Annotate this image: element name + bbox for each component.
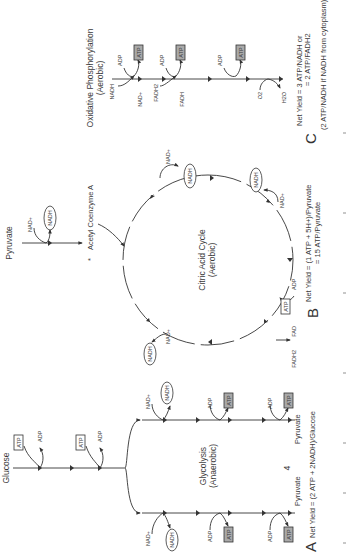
acetyl-entry-arrow <box>98 224 124 246</box>
panel-letter-b: B <box>304 308 321 318</box>
nad-plus-label: NAD+ <box>165 149 171 164</box>
oxphos-net-yield-line-2: = 2 ATP/FADH2 <box>303 33 312 86</box>
nad-reduction-arrow <box>264 190 278 202</box>
oxygen-label: O2 <box>257 92 263 99</box>
oxphos-atp-step-2: ADP ATP <box>159 45 185 77</box>
arrowhead-icon <box>138 76 142 82</box>
marker-4: 4 <box>282 465 292 470</box>
glycolysis-net-yield: Net Yield = (2 ATP + 2NADH)/Glucose <box>308 411 317 538</box>
arrowhead-icon <box>48 240 52 246</box>
acetyl-coa-label: Acetyl Coenzyme A <box>86 185 95 250</box>
nad-plus-out-label: NAD+ <box>137 92 143 107</box>
arrowhead-icon <box>288 417 292 423</box>
nad-plus-label: NAD+ <box>145 394 151 409</box>
atp-label: ATP <box>286 529 292 540</box>
cycle-nad-step-1: NAD+ NADH <box>144 329 171 365</box>
atp-label: ATP <box>136 47 142 58</box>
citric-cycle-subtitle: (Aerobic) <box>207 243 217 278</box>
adp-label: ADP <box>267 530 273 542</box>
atp-label: ATP <box>238 47 244 58</box>
atp-investment-1: ATP ADP <box>14 430 43 468</box>
nadh-label: NADH <box>47 210 53 226</box>
adp-to-atp-arrow <box>166 60 181 77</box>
nad-plus-label: NAD+ <box>279 193 285 208</box>
arrowhead-icon <box>196 510 200 516</box>
atp-label: ATP <box>283 301 289 312</box>
nad-reduction-arrow <box>152 334 166 342</box>
arrowhead-icon <box>288 510 292 516</box>
oxphos-subtitle: (Aerobic) <box>95 61 105 96</box>
arrowhead-icon <box>208 339 212 345</box>
adp-label: ADP <box>159 54 165 66</box>
nad-reduction-arrow <box>152 404 170 420</box>
arrowhead-icon <box>210 175 214 181</box>
adp-label: ADP <box>97 430 103 442</box>
pyruvate-label: Pyruvate <box>293 414 302 444</box>
nad-reduction-arrow <box>160 165 178 178</box>
atp-to-adp-arrow <box>86 446 103 468</box>
oxphos-atp-step-3: ADP ATP <box>217 45 245 77</box>
glycolysis-section: Glucose ATP ADP ATP ADP <box>1 382 319 552</box>
nadh-entry-arrow <box>118 76 134 86</box>
adp-to-atp-arrow <box>124 60 139 77</box>
adp-label: ADP <box>217 54 223 66</box>
nad-plus-label: NAD+ <box>27 217 33 232</box>
atp-label: ATP <box>16 437 22 448</box>
pyruvate-entry-label: Pyruvate <box>4 226 14 260</box>
cycle-atp-step: ADP ATP <box>280 278 297 314</box>
arrowhead-icon <box>150 195 155 199</box>
atp-label: ATP <box>286 395 292 406</box>
atp-label: ATP <box>226 529 232 540</box>
citric-acid-cycle-section: Pyruvate NAD+ NADH * Acetyl Coenzyme A C… <box>4 149 322 368</box>
oxphos-title: Oxidative Phosphorylation <box>85 28 95 127</box>
arrowhead-icon <box>279 76 283 82</box>
adp-label: ADP <box>117 54 123 66</box>
arrowhead-icon <box>196 417 200 423</box>
fadh2-in-label: FADH2 <box>153 84 159 102</box>
adp-to-atp-arrow <box>224 60 241 77</box>
nad-plus-label: NAD+ <box>145 531 151 546</box>
oxphos-cytoplasm-note: (2 ATP/NADH if NADH from cytoplasm) <box>319 0 328 130</box>
atp-label: ATP <box>226 395 232 406</box>
fadh2-label: FADH2 <box>291 350 297 368</box>
nadh-label: NADH <box>169 532 175 548</box>
atp-investment-2: ATP ADP <box>76 430 103 468</box>
nadh-label: NADH <box>253 172 259 188</box>
faint-caption-strip <box>343 132 346 544</box>
fadh-out-label: FADH <box>179 92 185 107</box>
arrowhead-icon <box>246 76 250 82</box>
cycle-fad-step: FAD FADH2 <box>276 326 297 368</box>
oxidative-phosphorylation-section: Oxidative Phosphorylation (Aerobic) NADH… <box>85 0 328 144</box>
atp-label: ATP <box>78 437 84 448</box>
metabolic-pathway-diagram: Glucose ATP ADP ATP ADP <box>0 0 349 554</box>
pyruvate-label: Pyruvate <box>293 476 302 506</box>
nadh-label: NADH <box>147 346 153 362</box>
cycle-net-yield-line-2: = 15 ATP/Pyruvate <box>313 202 322 264</box>
fork-right-arrow <box>125 420 140 468</box>
adp-label: ADP <box>37 430 43 442</box>
nadh-in-label: NADH <box>109 84 115 100</box>
arrowhead-icon <box>262 417 266 423</box>
arrowhead-icon <box>70 465 74 471</box>
glycolysis-branch-right: NAD+ NADH ADP ATP ADP ATP Pyruvate <box>142 382 302 444</box>
arrowhead-icon <box>287 258 293 262</box>
nad-reduction-arrow <box>152 513 170 534</box>
cycle-nad-step-2: NAD+ NADH <box>160 149 196 188</box>
nad-reduction-arrow <box>34 228 50 243</box>
nad-plus-label: NAD+ <box>165 329 171 344</box>
fad-label: FAD <box>291 326 297 337</box>
fork-left-arrow <box>125 468 140 513</box>
arrowhead-icon <box>228 510 232 516</box>
oxphos-atp-step-1: ADP ATP <box>117 45 143 77</box>
adp-label: ADP <box>291 278 297 290</box>
citric-cycle-title: Citric Acid Cycle <box>197 229 207 291</box>
glycolysis-subtitle: (Anaerobic) <box>208 444 218 488</box>
arrowhead-icon <box>228 417 232 423</box>
arrowhead-icon <box>162 76 166 82</box>
arrowhead-icon <box>262 510 266 516</box>
oxygen-to-water-arrow <box>260 79 280 90</box>
glycolysis-title: Glycolysis <box>198 447 208 485</box>
acetyl-marker: * <box>86 258 95 261</box>
atp-label: ATP <box>178 47 184 58</box>
cycle-net-yield-line-1: Net Yield = (1 ATP + 5H+)/Pyruvate <box>304 185 313 303</box>
